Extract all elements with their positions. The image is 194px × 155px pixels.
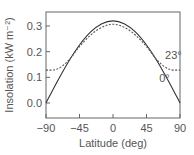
series-0deg-line — [46, 21, 180, 103]
x-tick-label: 90 — [174, 122, 186, 134]
x-axis-ticks: −90−4504590 — [37, 114, 186, 134]
x-tick-label: −45 — [70, 122, 89, 134]
x-tick-label: −90 — [37, 122, 56, 134]
x-tick-label: 0 — [110, 122, 116, 134]
annotations: 23°0° — [159, 49, 182, 84]
y-tick-label: 0.1 — [27, 71, 42, 83]
series-annotation: 23° — [165, 49, 182, 61]
x-axis-label: Latitude (deg) — [79, 137, 147, 149]
y-tick-label: 0.3 — [27, 20, 42, 32]
y-tick-label: 0.0 — [27, 97, 42, 109]
x-tick-label: 45 — [140, 122, 152, 134]
series-annotation: 0° — [159, 72, 170, 84]
series-lines — [46, 21, 180, 103]
y-axis-label: Insolation (kW m⁻²) — [3, 17, 15, 112]
y-axis-ticks: 0.00.10.20.3 — [27, 20, 50, 109]
insolation-chart: 0.00.10.20.3 −90−4504590 23°0° Latitude … — [0, 0, 194, 155]
y-tick-label: 0.2 — [27, 46, 42, 58]
series-23deg-line — [46, 24, 180, 70]
